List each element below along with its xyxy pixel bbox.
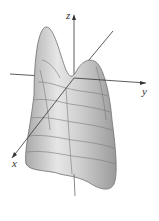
z-arrowhead xyxy=(72,14,76,20)
z-axis-label: z xyxy=(66,10,70,21)
surface-plot xyxy=(0,0,159,221)
x-axis-label: x xyxy=(12,158,17,169)
y-axis-label: y xyxy=(142,86,147,97)
surface xyxy=(26,27,117,189)
